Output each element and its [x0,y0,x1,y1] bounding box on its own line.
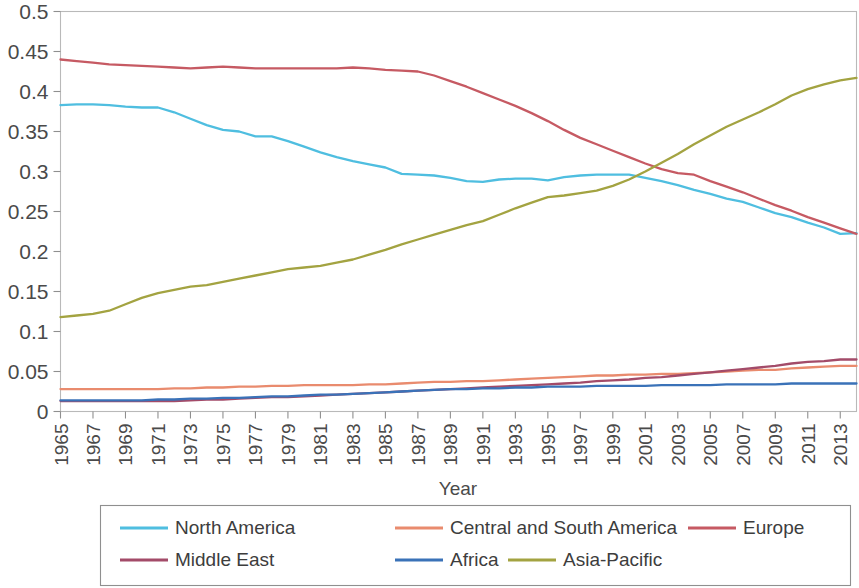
y-tick-label: 0.4 [19,80,49,103]
legend-label-europe: Europe [743,517,804,538]
line-chart: 00.050.10.150.20.250.30.350.40.450.5 196… [0,0,859,588]
x-tick-label: 1999 [603,424,624,466]
y-tick-label: 0.1 [19,320,48,343]
x-tick-label: 1989 [440,424,461,466]
x-tick-label: 1973 [180,424,201,466]
x-tick-label: 1979 [278,424,299,466]
series-lines [61,60,857,402]
x-tick-label: 2001 [635,424,656,466]
x-tick-label: 1985 [375,424,396,466]
y-tick-label: 0.5 [19,0,48,23]
series-line-africa [61,384,857,401]
plot-area [61,12,857,412]
x-axis-labels: 1965196719691971197319751977197919811983… [51,424,852,466]
x-tick-label: 1983 [343,424,364,466]
y-tick-label: 0.25 [8,200,49,223]
series-line-europe [61,60,857,234]
x-tick-label: 1987 [408,424,429,466]
x-tick-label: 1981 [310,424,331,466]
series-line-middle-east [61,360,857,402]
x-tick-label: 1995 [538,424,559,466]
x-tick-label: 2011 [798,424,819,465]
y-tick-label: 0.05 [8,360,49,383]
legend-label-asia-pacific: Asia-Pacific [563,549,662,570]
y-axis-ticks [54,12,61,412]
x-tick-label: 1997 [570,424,591,466]
x-axis-ticks [61,412,841,419]
y-tick-label: 0 [37,400,49,423]
x-axis-title: Year [439,478,478,499]
series-line-north-america [61,104,857,234]
x-tick-label: 1967 [83,424,104,466]
y-axis-labels: 00.050.10.150.20.250.30.350.40.450.5 [8,0,49,423]
x-tick-label: 1993 [505,424,526,466]
x-tick-label: 2003 [668,424,689,466]
y-tick-label: 0.45 [8,40,49,63]
legend-label-middle-east: Middle East [175,549,275,570]
y-tick-label: 0.15 [8,280,49,303]
y-tick-label: 0.3 [19,160,48,183]
legend-label-north-america: North America [175,517,296,538]
x-tick-label: 2009 [765,424,786,466]
x-tick-label: 1991 [473,424,494,466]
y-tick-label: 0.35 [8,120,49,143]
x-tick-label: 1977 [245,424,266,466]
x-tick-label: 2013 [830,424,851,466]
plot-border [61,12,857,412]
x-tick-label: 2007 [733,424,754,466]
x-tick-label: 1971 [148,424,169,466]
x-tick-label: 1969 [115,424,136,466]
x-tick-label: 1975 [213,424,234,466]
x-tick-label: 1965 [51,424,72,466]
chart-legend: North AmericaCentral and South AmericaEu… [101,506,851,586]
y-tick-label: 0.2 [19,240,48,263]
legend-label-africa: Africa [450,549,499,570]
legend-label-central-and-south-america: Central and South America [450,517,678,538]
chart-canvas: 00.050.10.150.20.250.30.350.40.450.5 196… [0,0,859,588]
x-tick-label: 2005 [700,424,721,466]
